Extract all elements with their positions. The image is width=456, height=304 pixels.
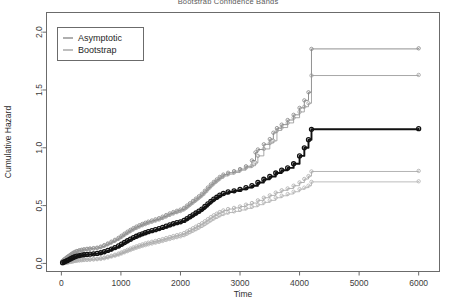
x-tick-label: 1000	[111, 278, 130, 288]
x-tick-label: 5000	[350, 278, 369, 288]
legend-label-bootstrap[interactable]: Bootstrap	[78, 45, 117, 55]
series-asymptotic-lower	[61, 169, 420, 265]
x-tick-label: 3000	[231, 278, 250, 288]
y-tick-label: 0.0	[34, 257, 44, 269]
series-bootstrap-lower	[61, 180, 420, 265]
y-axis: 0.00.51.01.52.0	[34, 26, 47, 269]
x-tick-label: 0	[59, 278, 64, 288]
y-tick-label: 0.5	[34, 199, 44, 211]
series-line	[63, 181, 419, 263]
x-axis-title: Time	[234, 289, 253, 299]
y-tick-label: 2.0	[34, 26, 44, 38]
legend[interactable]: AsymptoticBootstrap	[58, 28, 144, 61]
series-asymptotic-upper	[61, 47, 420, 263]
y-axis-title: Cumulative Hazard	[3, 106, 13, 179]
series-bootstrap-upper	[61, 73, 420, 263]
y-tick-label: 1.5	[34, 84, 44, 96]
data-series-layer	[61, 47, 421, 265]
cumulative-hazard-plot: 0.00.51.01.52.0 010002000300040005000600…	[0, 0, 456, 304]
legend-label-asymptotic[interactable]: Asymptotic	[78, 33, 123, 43]
x-axis: 0100020003000400050006000	[59, 272, 428, 288]
x-tick-label: 2000	[171, 278, 190, 288]
series-estimate	[61, 127, 421, 265]
y-tick-label: 1.0	[34, 142, 44, 154]
series-line	[63, 129, 419, 263]
series-line	[63, 48, 419, 261]
x-tick-label: 6000	[409, 278, 428, 288]
series-line	[63, 75, 419, 261]
x-tick-label: 4000	[290, 278, 309, 288]
chart-figure: Bootstrap Confidence Bands 0.00.51.01.52…	[0, 0, 456, 304]
